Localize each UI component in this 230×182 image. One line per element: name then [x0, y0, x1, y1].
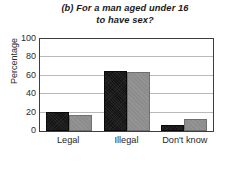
- y-axis-tick-label: 100: [6, 34, 36, 43]
- bar-group: [98, 39, 156, 131]
- y-axis-tick-labels: 100 80 60 40 20 0: [6, 33, 36, 135]
- bar-chart-figure: (b) For a man aged under 16 to have sex?…: [0, 0, 230, 182]
- bar-series-2: [127, 72, 150, 131]
- bar-group: [155, 39, 213, 131]
- x-axis-category-label: Illegal: [97, 134, 155, 148]
- chart-title: (b) For a man aged under 16 to have sex?: [30, 2, 220, 26]
- bar-series-1: [46, 112, 69, 131]
- bars-layer: [40, 39, 213, 131]
- bar-series-1: [104, 71, 127, 131]
- chart-title-line-2: to have sex?: [30, 14, 220, 26]
- y-axis-tick-label: 0: [6, 126, 36, 135]
- y-axis-tick-label: 40: [6, 89, 36, 98]
- y-axis-tick-label: 20: [6, 107, 36, 116]
- bar-series-1: [161, 125, 184, 131]
- x-axis-tick-labels: Legal Illegal Don't know: [39, 134, 214, 148]
- x-axis-category-label: Legal: [39, 134, 97, 148]
- bar-series-2: [184, 119, 207, 131]
- y-axis-tick-label: 60: [6, 70, 36, 79]
- chart-title-line-1: (b) For a man aged under 16: [30, 2, 220, 14]
- y-axis-tick-label: 80: [6, 52, 36, 61]
- plot-area: [39, 38, 214, 132]
- bar-series-2: [69, 115, 92, 131]
- bar-group: [40, 39, 98, 131]
- x-axis-category-label: Don't know: [156, 134, 214, 148]
